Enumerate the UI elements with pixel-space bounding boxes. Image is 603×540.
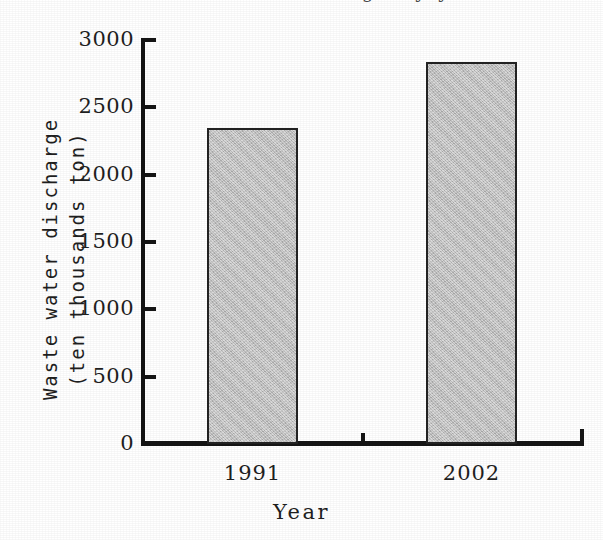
- y-axis-title: Waste water discharge (ten thousands ton…: [37, 109, 91, 409]
- y-axis-tick: [145, 105, 156, 109]
- bar: [426, 62, 517, 444]
- cropped-title-text: Waste water discharge by year: [108, 0, 493, 2]
- x-axis-tick-label: 2002: [412, 461, 532, 485]
- x-axis-right-cap: [580, 429, 584, 442]
- y-axis-title-line-1: Waste water discharge: [39, 118, 61, 400]
- y-axis-tick-label: 3000: [62, 29, 134, 50]
- bar: [207, 128, 298, 444]
- x-axis-title: Year: [0, 500, 603, 524]
- y-axis-tick: [145, 240, 156, 244]
- y-axis-tick: [145, 442, 156, 446]
- y-axis-tick-label: 0: [62, 433, 134, 454]
- y-axis-tick: [145, 375, 156, 379]
- y-axis-tick: [145, 307, 156, 311]
- y-axis-tick: [145, 38, 156, 42]
- y-axis-title-line-2: (ten thousands ton): [64, 109, 91, 409]
- x-axis-mid-tick: [361, 433, 365, 442]
- y-axis-tick: [145, 173, 156, 177]
- bar-chart: Waste water discharge by year 3000250020…: [0, 0, 603, 540]
- x-axis-tick-label: 1991: [193, 461, 313, 485]
- cropped-figure-title: Waste water discharge by year: [0, 0, 603, 14]
